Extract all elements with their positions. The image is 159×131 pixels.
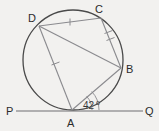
label-c: C <box>95 3 103 15</box>
label-b: B <box>126 63 133 75</box>
angle-label-degree: o <box>96 99 100 106</box>
label-p: P <box>6 105 13 117</box>
label-d: D <box>28 12 36 24</box>
geometry-diagram: P Q A B C D 42 o <box>0 0 159 131</box>
angle-label-value: 42 <box>83 100 95 111</box>
geometry-canvas: P Q A B C D 42 o <box>0 0 159 131</box>
label-a: A <box>67 117 75 129</box>
label-q: Q <box>145 105 154 117</box>
